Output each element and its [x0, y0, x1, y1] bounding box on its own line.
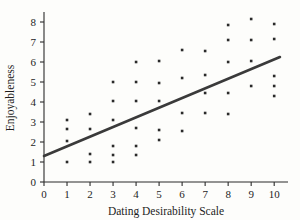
y-tick-label: 3 [31, 116, 37, 128]
x-axis-title: Dating Desirability Scale [108, 205, 224, 218]
x-tick-label: 4 [133, 188, 139, 200]
data-point [204, 74, 207, 77]
data-point [135, 145, 138, 148]
data-point [273, 95, 276, 98]
data-point [66, 161, 69, 164]
data-point [112, 81, 115, 84]
data-point [273, 85, 276, 88]
y-tick-label: 0 [31, 176, 37, 188]
data-point [135, 127, 138, 130]
data-point [227, 92, 230, 95]
data-point [273, 23, 276, 26]
x-tick-label: 8 [225, 188, 231, 200]
x-tick-label: 9 [248, 188, 254, 200]
data-point [89, 128, 92, 131]
data-point [112, 154, 115, 157]
data-point [135, 154, 138, 157]
data-point [89, 113, 92, 116]
y-tick-label: 7 [31, 36, 37, 48]
data-point [227, 113, 230, 116]
data-point [135, 100, 138, 103]
data-point [250, 60, 253, 63]
x-tick-label: 7 [202, 188, 208, 200]
data-point [204, 50, 207, 53]
x-tick-label: 3 [110, 188, 116, 200]
data-point [250, 18, 253, 21]
data-point [66, 128, 69, 131]
x-axis-ticks: 012345678910 [41, 182, 280, 200]
data-point [250, 39, 253, 42]
y-tick-label: 6 [31, 56, 37, 68]
x-tick-label: 10 [269, 188, 281, 200]
y-tick-label: 2 [31, 136, 37, 148]
x-tick-label: 5 [156, 188, 162, 200]
y-tick-label: 8 [31, 16, 37, 28]
data-point [158, 82, 161, 85]
x-tick-label: 2 [87, 188, 93, 200]
data-point [273, 38, 276, 41]
regression-line [44, 57, 280, 156]
data-point [273, 75, 276, 78]
data-point [89, 161, 92, 164]
x-tick-label: 0 [41, 188, 47, 200]
data-point [158, 139, 161, 142]
data-point [181, 77, 184, 80]
x-tick-label: 6 [179, 188, 185, 200]
data-point [181, 112, 184, 115]
data-point [112, 145, 115, 148]
data-point [227, 24, 230, 27]
y-tick-label: 1 [31, 156, 37, 168]
y-axis-ticks: 012345678 [31, 16, 45, 188]
data-point [89, 153, 92, 156]
data-point [66, 119, 69, 122]
x-tick-label: 1 [64, 188, 70, 200]
data-point [181, 130, 184, 133]
y-tick-label: 5 [31, 76, 37, 88]
data-point [66, 140, 69, 143]
data-point [135, 61, 138, 64]
data-point [204, 92, 207, 95]
data-point [227, 39, 230, 42]
y-axis-title: Enjoyableness [4, 64, 17, 131]
data-point [112, 119, 115, 122]
data-points-group [66, 18, 276, 164]
data-point [181, 49, 184, 52]
data-point [204, 112, 207, 115]
y-tick-label: 4 [31, 96, 37, 108]
data-point [250, 85, 253, 88]
data-point [158, 100, 161, 103]
data-point [112, 100, 115, 103]
data-point [112, 161, 115, 164]
data-point [227, 61, 230, 64]
data-point [158, 60, 161, 63]
chart-canvas: 012345678 012345678910 Dating Desirabili… [0, 0, 300, 220]
scatter-plot-figure: 012345678 012345678910 Dating Desirabili… [0, 0, 300, 220]
data-point [158, 129, 161, 132]
data-point [135, 81, 138, 84]
